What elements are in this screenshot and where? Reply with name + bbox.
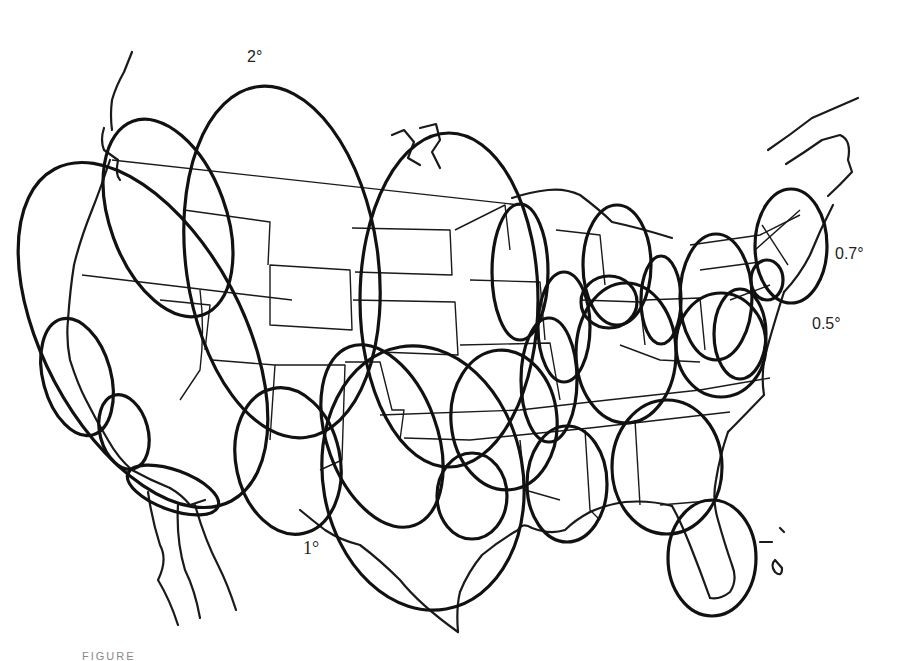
coastline [420, 124, 440, 168]
beam-footprint-ellipse [755, 189, 827, 303]
coastline [457, 530, 518, 632]
beam-footprint-ellipse [437, 453, 507, 539]
state-border-line [270, 265, 352, 330]
beam-footprint-ellipse [676, 293, 766, 397]
coastline [111, 52, 132, 130]
state-border-line [275, 365, 345, 470]
island-outline [773, 560, 783, 574]
label-beam-2deg: 2° [247, 48, 262, 66]
beam-footprint-ellipse [527, 426, 607, 542]
state-border-line [455, 205, 510, 250]
islands [760, 528, 784, 574]
coastline [768, 98, 858, 150]
label-beam-0-7deg: 0.7° [835, 245, 864, 263]
coastline [300, 510, 458, 632]
state-border-line [112, 160, 520, 205]
beam-footprint-ellipse [612, 400, 722, 534]
state-border-line [585, 430, 600, 520]
figure-caption: FIGURE [82, 650, 136, 661]
coastline [518, 512, 590, 532]
beam-footprint-ellipse [78, 101, 257, 334]
beam-coverage-map [0, 0, 909, 661]
state-border-line [620, 345, 700, 362]
coastline [392, 130, 420, 165]
state-border-line [700, 262, 760, 270]
label-beam-0-5deg: 0.5° [812, 315, 841, 333]
coastline [178, 505, 200, 618]
beam-footprint-ellipse [162, 73, 401, 450]
island-outline [780, 528, 784, 532]
beam-footprint-ellipse [576, 283, 676, 423]
beam-ellipses [0, 73, 827, 626]
label-beam-1deg: 1° [303, 538, 319, 559]
state-border-line [635, 420, 640, 505]
coastline [195, 505, 236, 610]
coastline [786, 135, 852, 196]
beam-footprint-ellipse [301, 330, 544, 627]
beam-footprint-ellipse [714, 289, 766, 379]
state-border-line [690, 215, 800, 245]
